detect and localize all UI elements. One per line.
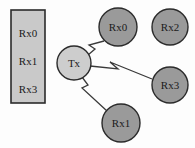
diagram-canvas: Rx0 Rx1 Rx3 Tx Rx0 Rx2 Rx3 bbox=[0, 0, 195, 148]
transmit-queue[interactable]: Rx0 Rx1 Rx3 bbox=[11, 10, 45, 103]
link-tx-to-rx0[interactable] bbox=[88, 41, 104, 55]
tx-node[interactable]: Tx bbox=[57, 46, 91, 80]
link-tx-to-rx3[interactable] bbox=[90, 62, 152, 79]
diagram-svg: Rx0 Rx1 Rx3 Tx Rx0 Rx2 Rx3 bbox=[0, 0, 195, 148]
rx0-node-circle[interactable] bbox=[99, 8, 137, 46]
rx3-node[interactable]: Rx3 bbox=[152, 67, 188, 103]
tx-node-circle[interactable] bbox=[57, 46, 91, 80]
rx3-node-circle[interactable] bbox=[152, 67, 188, 103]
rx2-node[interactable]: Rx2 bbox=[152, 9, 188, 45]
rx1-node-circle[interactable] bbox=[102, 104, 140, 142]
rx0-node[interactable]: Rx0 bbox=[99, 8, 137, 46]
transmit-queue-box[interactable] bbox=[11, 10, 45, 103]
link-tx-to-rx1[interactable] bbox=[82, 77, 107, 111]
link-layer bbox=[82, 41, 152, 111]
rx1-node[interactable]: Rx1 bbox=[102, 104, 140, 142]
rx2-node-circle[interactable] bbox=[152, 9, 188, 45]
